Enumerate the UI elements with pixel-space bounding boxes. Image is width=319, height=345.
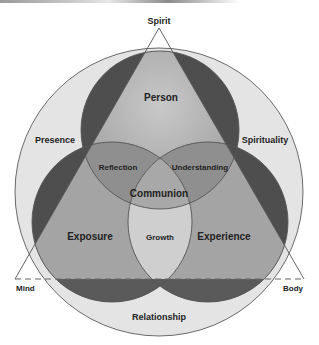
label-understanding: Understanding [172, 163, 229, 172]
label-reflection: Reflection [99, 163, 138, 172]
label-presence: Presence [35, 135, 75, 145]
label-body: Body [283, 284, 304, 293]
label-spirit: Spirit [147, 16, 170, 26]
label-exposure: Exposure [67, 231, 113, 242]
label-experience: Experience [197, 231, 251, 242]
label-growth: Growth [146, 233, 174, 242]
label-person: Person [144, 92, 178, 103]
label-relationship: Relationship [132, 312, 187, 322]
label-spirituality: Spirituality [242, 135, 289, 145]
label-communion: Communion [130, 188, 188, 199]
spirit-mind-body-diagram: Spirit Mind Body Presence Spirituality R… [0, 0, 319, 345]
label-mind: Mind [16, 284, 35, 293]
